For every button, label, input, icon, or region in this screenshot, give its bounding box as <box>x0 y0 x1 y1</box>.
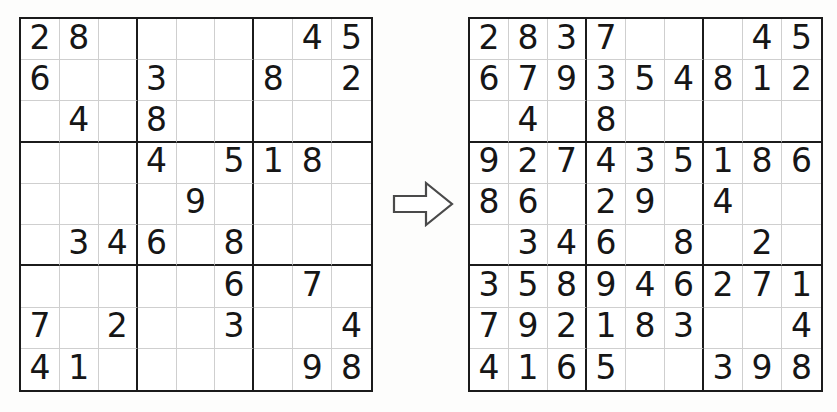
sudoku-cell[interactable]: 4 <box>704 184 743 225</box>
sudoku-cell[interactable]: 1 <box>743 60 782 101</box>
sudoku-cell[interactable]: 3 <box>626 143 665 184</box>
sudoku-cell[interactable] <box>215 184 254 225</box>
sudoku-cell[interactable]: 6 <box>587 225 626 266</box>
sudoku-cell[interactable]: 4 <box>21 349 60 390</box>
sudoku-cell[interactable] <box>177 101 216 142</box>
sudoku-cell[interactable]: 5 <box>665 143 704 184</box>
sudoku-cell[interactable]: 4 <box>782 308 821 349</box>
sudoku-cell[interactable] <box>138 184 177 225</box>
sudoku-cell[interactable]: 7 <box>548 143 587 184</box>
sudoku-cell[interactable]: 2 <box>743 225 782 266</box>
sudoku-cell[interactable]: 2 <box>99 308 138 349</box>
sudoku-cell[interactable] <box>293 225 332 266</box>
sudoku-cell[interactable] <box>177 308 216 349</box>
sudoku-cell[interactable]: 9 <box>177 184 216 225</box>
sudoku-cell[interactable]: 8 <box>782 349 821 390</box>
sudoku-cell[interactable]: 3 <box>60 225 99 266</box>
sudoku-cell[interactable] <box>665 101 704 142</box>
sudoku-cell[interactable]: 6 <box>782 143 821 184</box>
sudoku-cell[interactable]: 8 <box>704 60 743 101</box>
sudoku-cell[interactable]: 4 <box>548 225 587 266</box>
sudoku-cell[interactable]: 9 <box>743 349 782 390</box>
sudoku-cell[interactable]: 5 <box>587 349 626 390</box>
sudoku-cell[interactable] <box>626 225 665 266</box>
sudoku-cell[interactable]: 3 <box>587 60 626 101</box>
sudoku-cell[interactable]: 7 <box>470 308 509 349</box>
sudoku-cell[interactable]: 8 <box>509 19 548 60</box>
sudoku-cell[interactable] <box>704 225 743 266</box>
sudoku-cell[interactable] <box>782 225 821 266</box>
sudoku-cell[interactable] <box>177 266 216 307</box>
sudoku-cell[interactable]: 6 <box>138 225 177 266</box>
sudoku-cell[interactable] <box>215 349 254 390</box>
sudoku-cell[interactable]: 8 <box>548 266 587 307</box>
sudoku-cell[interactable]: 9 <box>626 184 665 225</box>
sudoku-cell[interactable] <box>782 101 821 142</box>
sudoku-cell[interactable] <box>626 101 665 142</box>
sudoku-cell[interactable]: 1 <box>587 308 626 349</box>
sudoku-cell[interactable] <box>254 308 293 349</box>
sudoku-cell[interactable]: 5 <box>626 60 665 101</box>
sudoku-cell[interactable] <box>60 308 99 349</box>
sudoku-cell[interactable] <box>293 308 332 349</box>
sudoku-cell[interactable] <box>138 308 177 349</box>
sudoku-cell[interactable] <box>177 60 216 101</box>
sudoku-cell[interactable]: 6 <box>509 184 548 225</box>
sudoku-cell[interactable] <box>332 225 371 266</box>
sudoku-cell[interactable]: 7 <box>743 266 782 307</box>
sudoku-cell[interactable] <box>254 19 293 60</box>
sudoku-cell[interactable] <box>665 19 704 60</box>
sudoku-cell[interactable] <box>254 225 293 266</box>
sudoku-cell[interactable]: 7 <box>293 266 332 307</box>
sudoku-cell[interactable] <box>99 60 138 101</box>
sudoku-cell[interactable]: 8 <box>293 143 332 184</box>
sudoku-cell[interactable]: 6 <box>665 266 704 307</box>
sudoku-cell[interactable] <box>254 266 293 307</box>
sudoku-cell[interactable]: 1 <box>782 266 821 307</box>
sudoku-cell[interactable]: 2 <box>509 143 548 184</box>
sudoku-cell[interactable] <box>626 19 665 60</box>
sudoku-cell[interactable]: 7 <box>587 19 626 60</box>
sudoku-cell[interactable]: 4 <box>587 143 626 184</box>
sudoku-cell[interactable] <box>138 349 177 390</box>
sudoku-cell[interactable] <box>21 266 60 307</box>
sudoku-cell[interactable]: 3 <box>665 308 704 349</box>
sudoku-cell[interactable]: 5 <box>332 19 371 60</box>
sudoku-solution-grid[interactable]: 2837456793548124892743518686294346823589… <box>468 17 823 392</box>
sudoku-cell[interactable] <box>99 184 138 225</box>
sudoku-cell[interactable] <box>60 184 99 225</box>
sudoku-cell[interactable]: 5 <box>215 143 254 184</box>
sudoku-cell[interactable]: 3 <box>215 308 254 349</box>
sudoku-cell[interactable] <box>177 349 216 390</box>
sudoku-cell[interactable]: 4 <box>60 101 99 142</box>
sudoku-puzzle-grid[interactable]: 28456382484518934686772344198 <box>19 17 373 392</box>
sudoku-cell[interactable] <box>254 349 293 390</box>
sudoku-cell[interactable]: 1 <box>254 143 293 184</box>
sudoku-cell[interactable] <box>99 349 138 390</box>
sudoku-cell[interactable]: 1 <box>509 349 548 390</box>
sudoku-cell[interactable]: 8 <box>626 308 665 349</box>
sudoku-cell[interactable]: 8 <box>587 101 626 142</box>
sudoku-cell[interactable] <box>254 184 293 225</box>
sudoku-cell[interactable] <box>293 60 332 101</box>
sudoku-cell[interactable] <box>60 143 99 184</box>
sudoku-cell[interactable] <box>138 266 177 307</box>
sudoku-cell[interactable] <box>215 19 254 60</box>
sudoku-cell[interactable]: 4 <box>743 19 782 60</box>
sudoku-cell[interactable]: 4 <box>665 60 704 101</box>
sudoku-cell[interactable]: 4 <box>470 349 509 390</box>
sudoku-cell[interactable]: 2 <box>704 266 743 307</box>
sudoku-cell[interactable]: 8 <box>254 60 293 101</box>
sudoku-cell[interactable] <box>293 184 332 225</box>
sudoku-cell[interactable] <box>332 184 371 225</box>
sudoku-cell[interactable]: 8 <box>332 349 371 390</box>
sudoku-cell[interactable] <box>704 308 743 349</box>
sudoku-cell[interactable] <box>548 101 587 142</box>
sudoku-cell[interactable]: 8 <box>665 225 704 266</box>
sudoku-cell[interactable]: 9 <box>293 349 332 390</box>
sudoku-cell[interactable]: 9 <box>509 308 548 349</box>
sudoku-cell[interactable] <box>743 184 782 225</box>
sudoku-cell[interactable]: 4 <box>332 308 371 349</box>
sudoku-cell[interactable]: 3 <box>138 60 177 101</box>
sudoku-cell[interactable] <box>332 266 371 307</box>
